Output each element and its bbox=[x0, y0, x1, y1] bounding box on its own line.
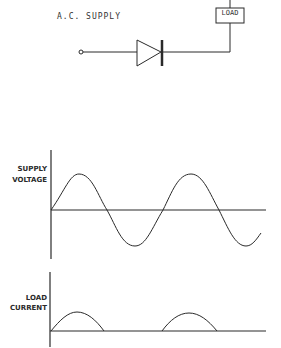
current-label-line2: CURRENT bbox=[10, 305, 47, 312]
voltage-graph bbox=[51, 150, 266, 259]
current-pulse-2 bbox=[162, 313, 217, 331]
voltage-label-line2: VOLTAGE bbox=[12, 177, 47, 184]
diode-triangle-icon bbox=[137, 40, 161, 66]
ac-supply-label: A.C. SUPPLY bbox=[57, 13, 121, 21]
input-terminal-icon bbox=[79, 50, 83, 54]
current-label-line1: LOAD bbox=[26, 295, 47, 302]
load-label: LOAD bbox=[216, 10, 244, 17]
current-pulse-1 bbox=[51, 312, 104, 331]
current-graph bbox=[50, 272, 266, 347]
voltage-label-line1: SUPPLY bbox=[18, 166, 47, 173]
